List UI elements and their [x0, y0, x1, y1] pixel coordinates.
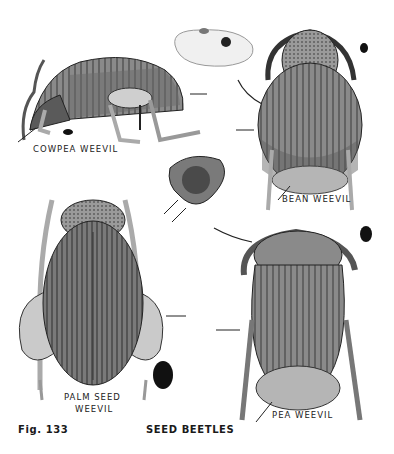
label-bean-weevil: BEAN WEEVIL	[282, 194, 351, 204]
label-palm-seed-line2: WEEVIL	[75, 404, 113, 414]
figure-title: SEED BEETLES	[146, 424, 234, 435]
bean-weevil-drawing	[236, 30, 368, 210]
label-cowpea-weevil: COWPEA WEEVIL	[33, 144, 118, 154]
figure-number: Fig. 133	[18, 424, 68, 435]
head-detail-drawing	[164, 156, 252, 242]
palm-seed-weevil-drawing	[19, 200, 186, 400]
pea-weevil-drawing	[216, 226, 372, 422]
illustration-plate: COWPEA WEEVIL BEAN WEEVIL PALM SEED WEEV…	[0, 0, 394, 454]
label-pea-weevil: PEA WEEVIL	[272, 410, 333, 420]
beetle-illustrations	[0, 0, 394, 454]
label-palm-seed-line1: PALM SEED	[64, 392, 121, 402]
cowpea-weevil-drawing	[18, 58, 207, 143]
bean-seed-drawing	[175, 28, 262, 104]
